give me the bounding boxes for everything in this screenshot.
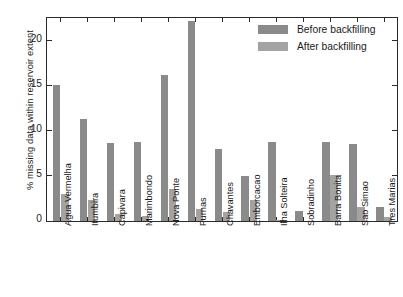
y-axis-tick <box>47 221 52 222</box>
x-axis-tick-label: Agua Vermelha <box>63 163 73 226</box>
bar-before <box>322 142 330 221</box>
x-axis-tick-label: Furnas <box>198 197 208 226</box>
bar-before <box>134 142 142 221</box>
x-axis-tick <box>168 18 169 22</box>
bar-before <box>53 85 61 221</box>
y-axis-tick-label: 15 <box>12 78 42 89</box>
bar-before <box>376 207 384 221</box>
y-axis-tick-label: 0 <box>12 213 42 224</box>
x-axis-tick-label: Ilha Solteira <box>279 177 289 226</box>
bar-before <box>80 119 88 221</box>
x-axis-tick <box>303 217 304 221</box>
legend-label-after: After backfilling <box>297 41 367 52</box>
y-axis-tick <box>392 130 397 131</box>
bar-chart-figure: % missing data within reservoir extent B… <box>0 0 403 297</box>
y-axis-tick <box>392 40 397 41</box>
y-axis-tick <box>47 85 52 86</box>
bar-before <box>161 75 169 221</box>
x-axis-tick <box>249 18 250 22</box>
x-axis-tick-label: Capivara <box>117 189 127 226</box>
x-axis-tick-label: Sobradinho <box>306 179 316 226</box>
x-axis-tick-label: Itumbira <box>90 193 100 226</box>
x-axis-tick <box>114 18 115 22</box>
bar-before <box>268 142 276 221</box>
x-axis-tick-label: Chavantes <box>225 182 235 226</box>
bar-before <box>241 176 249 221</box>
bar-before <box>349 144 357 221</box>
x-axis-tick-label: Sao Simao <box>360 181 370 226</box>
bar-before <box>107 143 115 221</box>
y-axis-tick <box>392 85 397 86</box>
x-axis-tick <box>60 18 61 22</box>
y-axis-tick-label: 10 <box>12 123 42 134</box>
y-axis-tick-label: 5 <box>12 168 42 179</box>
legend-item-before: Before backfilling <box>258 22 390 36</box>
y-axis-tick <box>47 130 52 131</box>
chart-legend: Before backfilling After backfilling <box>258 22 390 56</box>
y-axis-tick <box>47 40 52 41</box>
x-axis-tick-label: Marimbondo <box>144 175 154 226</box>
y-axis-tick <box>47 175 52 176</box>
bar-before <box>215 149 223 221</box>
x-axis-tick-label: Tres Marias <box>387 178 397 226</box>
x-axis-tick-label: Barra Bonita <box>333 175 343 226</box>
x-axis-tick <box>195 18 196 22</box>
x-axis-tick-label: Emborcacao <box>252 174 262 226</box>
legend-swatch-before-icon <box>258 25 288 34</box>
x-axis-tick <box>87 18 88 22</box>
x-axis-tick-label: Nova Ponte <box>171 178 181 226</box>
legend-item-after: After backfilling <box>258 39 390 53</box>
bar-before <box>188 21 196 221</box>
legend-label-before: Before backfilling <box>297 24 375 35</box>
x-axis-tick <box>222 18 223 22</box>
bar-before <box>295 211 303 221</box>
y-axis-tick-label: 20 <box>12 33 42 44</box>
x-axis-tick <box>141 18 142 22</box>
y-axis-tick <box>392 175 397 176</box>
legend-swatch-after-icon <box>258 42 288 51</box>
